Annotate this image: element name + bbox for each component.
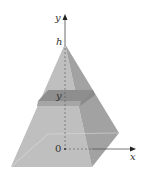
- y-axis-label: y: [54, 12, 61, 23]
- cross-section-front: [37, 101, 81, 106]
- apex-label-h: h: [56, 36, 62, 47]
- origin-dot: [64, 148, 66, 150]
- origin-label: 0: [55, 143, 61, 154]
- x-axis-label: x: [130, 151, 136, 162]
- cross-section-label-y: y: [55, 90, 62, 101]
- y-axis-arrow-icon: [63, 14, 68, 20]
- pyramid-diagram: y h y 0 x: [0, 0, 146, 180]
